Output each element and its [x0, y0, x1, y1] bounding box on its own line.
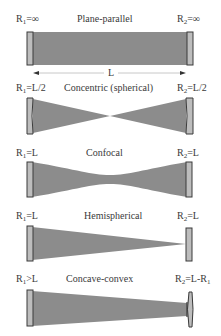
right-mirror	[188, 292, 194, 327]
r2-relation: =L/2	[187, 82, 207, 93]
left-mirror	[27, 98, 33, 134]
r1-symbol: R	[16, 210, 23, 221]
r2-label: R2=L	[177, 147, 199, 162]
resonator-title: Confocal	[86, 147, 123, 158]
r2-label: R2=L	[177, 210, 199, 225]
r2-symbol: R	[177, 210, 184, 221]
r1-relation: =L	[26, 210, 38, 221]
resonator-title: Hemispherical	[84, 210, 142, 221]
r1-label: R1=L/2	[16, 82, 46, 97]
r1-relation: >L	[26, 273, 38, 284]
r1-label: R1>L	[16, 273, 38, 288]
hemispherical-resonator	[27, 226, 192, 261]
r2-symbol: R	[177, 13, 184, 24]
r2-symbol: R	[175, 273, 182, 284]
r1-relation: =L	[26, 147, 38, 158]
r2-label: R2=L/2	[177, 82, 207, 97]
beam	[32, 227, 186, 260]
r1-label: R1=L	[16, 147, 38, 162]
r1-symbol: R	[16, 273, 23, 284]
beam	[33, 99, 186, 133]
r1-label: R1=L	[16, 210, 38, 225]
r1-label: R1=∞	[16, 13, 39, 28]
r2-relation: =L-R	[185, 273, 207, 284]
left-mirror	[27, 226, 33, 261]
right-mirror	[186, 98, 193, 134]
resonator-title: Concave-convex	[66, 273, 133, 284]
r2-label: R2=L-R1	[175, 273, 210, 288]
r1-relation: =∞	[26, 13, 39, 24]
r1-symbol: R	[16, 82, 23, 93]
beam	[32, 162, 187, 197]
left-mirror	[27, 162, 33, 197]
r2-symbol: R	[177, 147, 184, 158]
confocal-resonator	[27, 162, 192, 197]
length-label: L	[108, 67, 114, 78]
beam	[32, 32, 187, 65]
left-mirror	[27, 32, 33, 65]
r1-symbol: R	[16, 13, 23, 24]
beam	[32, 291, 187, 326]
concave-convex-resonator	[27, 290, 193, 327]
r2-relation: =∞	[187, 13, 200, 24]
left-mirror	[27, 290, 33, 326]
r1-relation: =L/2	[26, 82, 46, 93]
resonator-title: Concentric (spherical)	[64, 82, 153, 93]
right-mirror	[186, 228, 192, 261]
concentric-resonator	[27, 98, 193, 134]
plane-parallel-resonator	[27, 32, 193, 65]
r2-label: R2=∞	[177, 13, 200, 28]
right-mirror	[187, 32, 193, 65]
r2-relation: =L	[187, 210, 199, 221]
r1-symbol: R	[16, 147, 23, 158]
r2-relation: =L	[187, 147, 199, 158]
r2-symbol: R	[177, 82, 184, 93]
resonator-title: Plane-parallel	[77, 13, 133, 24]
r2-relation-subscript: 1	[207, 278, 211, 286]
right-mirror	[186, 162, 192, 197]
